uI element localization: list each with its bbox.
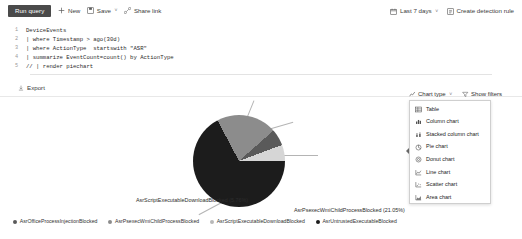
new-label: New — [68, 8, 80, 14]
plus-icon — [58, 7, 65, 14]
show-filters-button[interactable]: Show filters — [462, 91, 502, 98]
menu-item-label: Column chart — [426, 119, 459, 125]
advanced-hunting-page: Run query New Save ˅ Share link — [0, 0, 522, 239]
show-filters-label: Show filters — [471, 91, 502, 97]
chart-type-button[interactable]: Chart type ˅ — [409, 91, 452, 98]
chart-legend: AsrOfficeProcessInjectionBlocked AsrPsex… — [0, 215, 410, 229]
legend-label: AsrUntrustedExecutableBlocked — [322, 219, 396, 224]
share-icon — [124, 7, 131, 14]
donut-chart-icon — [415, 156, 422, 163]
legend-label: AsrPsexecWmiChildProcessBlocked — [115, 219, 199, 224]
pie-label-psexec-wmi-child-process: AsrPsexecWmiChildProcessBlocked (21.05%) — [294, 208, 405, 213]
query-line: 5 // | render piechart — [0, 62, 522, 71]
line-number: 2 — [0, 35, 26, 44]
query-toolbar: Run query New Save ˅ Share link — [0, 0, 522, 22]
query-line: 1 DeviceEvents — [0, 26, 522, 35]
line-code: DeviceEvents — [26, 26, 66, 35]
menu-item-scatter-chart[interactable]: Scatter chart — [410, 179, 490, 192]
menu-item-label: Table — [426, 107, 439, 113]
new-button[interactable]: New — [58, 7, 80, 14]
line-chart-icon — [415, 169, 422, 176]
menu-item-label: Pie chart — [426, 144, 448, 150]
legend-item[interactable]: AsrPsexecWmiChildProcessBlocked — [108, 219, 199, 224]
save-button[interactable]: Save ˅ — [87, 7, 117, 14]
toolbar-right-group: Last 7 days ˅ Create detection rule — [390, 8, 514, 15]
calendar-icon — [390, 8, 397, 15]
export-button[interactable]: Export — [18, 85, 45, 91]
chart-panel-header: Chart type ˅ Show filters — [409, 88, 522, 100]
menu-item-label: Donut chart — [426, 157, 454, 163]
line-code: | summarize EventCount=count() by Action… — [26, 53, 174, 62]
legend-swatch — [316, 220, 320, 224]
pie-slices[interactable] — [193, 115, 285, 207]
chart-type-label: Chart type — [418, 91, 446, 97]
line-number: 4 — [0, 53, 26, 62]
menu-item-stacked-column-chart[interactable]: Stacked column chart — [410, 128, 490, 141]
query-editor[interactable]: 1 DeviceEvents 2 | where Timestamp > ago… — [0, 22, 522, 74]
menu-item-line-chart[interactable]: Line chart — [410, 166, 490, 179]
editor-divider — [30, 74, 492, 75]
create-detection-rule-label: Create detection rule — [457, 8, 514, 14]
menu-item-label: Scatter chart — [426, 182, 457, 188]
filter-icon — [462, 91, 469, 98]
save-icon — [87, 7, 94, 14]
menu-item-donut-chart[interactable]: Donut chart — [410, 153, 490, 166]
column-chart-icon — [415, 118, 422, 125]
toolbar-left-group: Run query New Save ˅ Share link — [8, 5, 161, 18]
pie-label-script-executable-download: AsrScriptExecutableDownloadBlocked (5.76… — [136, 198, 248, 203]
chart-type-icon — [409, 91, 416, 98]
stacked-column-chart-icon — [415, 131, 422, 138]
legend-item[interactable]: AsrUntrustedExecutableBlocked — [316, 219, 397, 224]
run-query-button[interactable]: Run query — [8, 5, 51, 18]
menu-item-column-chart[interactable]: Column chart — [410, 116, 490, 129]
chevron-down-icon[interactable]: ˅ — [435, 9, 438, 14]
legend-swatch — [13, 220, 17, 224]
query-line: 2 | where Timestamp > ago(30d) — [0, 35, 522, 44]
line-number: 1 — [0, 26, 26, 35]
share-link-button[interactable]: Share link — [124, 7, 161, 14]
legend-item[interactable]: AsrScriptExecutableDownloadBlocked — [210, 219, 305, 224]
line-number: 5 — [0, 62, 26, 71]
query-line: 4 | summarize EventCount=count() by Acti… — [0, 53, 522, 62]
legend-label: AsrScriptExecutableDownloadBlocked — [217, 219, 305, 224]
download-icon — [18, 85, 24, 91]
menu-item-table[interactable]: Table — [410, 103, 490, 116]
chevron-down-icon[interactable]: ˅ — [449, 92, 452, 97]
menu-item-pie-chart[interactable]: Pie chart — [410, 141, 490, 154]
legend-item[interactable]: AsrOfficeProcessInjectionBlocked — [13, 219, 97, 224]
line-code: | where ActionType startswith "ASR" — [26, 44, 147, 53]
menu-item-label: Area chart — [426, 195, 451, 201]
pie-chart — [193, 115, 285, 207]
line-number: 3 — [0, 44, 26, 53]
time-range-label: Last 7 days — [400, 8, 432, 14]
line-code: // | render piechart — [26, 62, 93, 71]
save-label: Save — [97, 8, 111, 14]
legend-swatch — [210, 220, 214, 224]
create-detection-rule-button[interactable]: Create detection rule — [447, 8, 514, 15]
time-range-picker[interactable]: Last 7 days ˅ — [390, 8, 438, 15]
legend-label: AsrOfficeProcessInjectionBlocked — [20, 219, 98, 224]
share-link-label: Share link — [134, 8, 162, 14]
pie-chart-icon — [415, 144, 422, 151]
menu-item-label: Line chart — [426, 170, 450, 176]
area-chart-icon — [415, 194, 422, 201]
table-icon — [415, 106, 422, 113]
scatter-chart-icon — [415, 181, 422, 188]
export-label: Export — [27, 85, 45, 91]
menu-item-area-chart[interactable]: Area chart — [410, 191, 490, 204]
rule-icon — [447, 8, 454, 15]
query-line: 3 | where ActionType startswith "ASR" — [0, 44, 522, 53]
chart-type-menu[interactable]: Table Column chart Stacked column chart … — [409, 100, 491, 204]
menu-item-label: Stacked column chart — [426, 132, 479, 138]
legend-swatch — [108, 220, 112, 224]
chevron-down-icon[interactable]: ˅ — [114, 8, 117, 13]
line-code: | where Timestamp > ago(30d) — [26, 35, 120, 44]
